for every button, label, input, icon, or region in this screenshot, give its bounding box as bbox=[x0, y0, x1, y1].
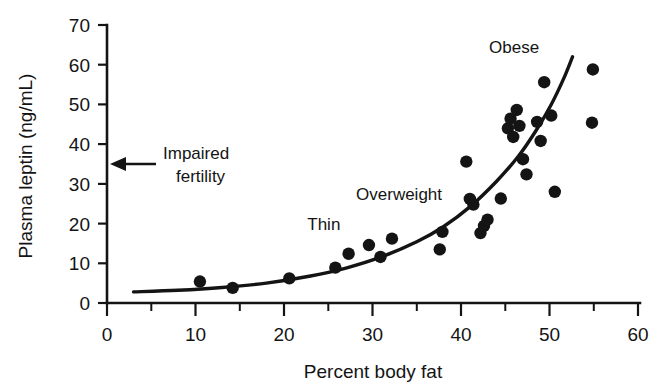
data-point bbox=[434, 243, 446, 255]
y-tick-label-30: 30 bbox=[69, 174, 90, 195]
y-axis-title: Plasma leptin (ng/mL) bbox=[15, 74, 36, 259]
y-tick-label-40: 40 bbox=[69, 134, 90, 155]
y-tick-label-20: 20 bbox=[69, 214, 90, 235]
data-point bbox=[587, 63, 599, 75]
annotation-obese: Obese bbox=[489, 38, 539, 57]
data-point bbox=[467, 198, 479, 210]
x-tick-label-30: 30 bbox=[362, 324, 383, 345]
y-tick-label-50: 50 bbox=[69, 94, 90, 115]
data-point bbox=[481, 213, 493, 225]
data-point bbox=[329, 261, 341, 273]
data-point bbox=[538, 76, 550, 88]
data-point bbox=[531, 116, 543, 128]
y-tick-label-70: 70 bbox=[69, 15, 90, 36]
chart-background bbox=[0, 0, 665, 392]
data-point bbox=[386, 232, 398, 244]
y-tick-label-60: 60 bbox=[69, 55, 90, 76]
data-point bbox=[342, 248, 354, 260]
data-point bbox=[517, 153, 529, 165]
y-tick-label-0: 0 bbox=[79, 293, 90, 314]
impaired-fertility-line2: fertility bbox=[176, 167, 226, 186]
y-tick-label-10: 10 bbox=[69, 253, 90, 274]
x-tick-label-20: 20 bbox=[273, 324, 294, 345]
data-point bbox=[545, 109, 557, 121]
impaired-fertility-line1: Impaired bbox=[163, 144, 229, 163]
scatter-plot-svg: Plasma leptin (ng/mL) Percent body fat 7… bbox=[0, 0, 665, 392]
data-point bbox=[586, 117, 598, 129]
x-tick-label-10: 10 bbox=[185, 324, 206, 345]
data-point bbox=[226, 282, 238, 294]
data-point bbox=[363, 239, 375, 251]
data-point bbox=[513, 120, 525, 132]
data-point bbox=[507, 131, 519, 143]
data-point bbox=[283, 272, 295, 284]
data-point bbox=[495, 192, 507, 204]
data-point bbox=[549, 186, 561, 198]
data-point bbox=[460, 155, 472, 167]
chart-figure: Plasma leptin (ng/mL) Percent body fat 7… bbox=[0, 0, 665, 392]
x-tick-label-40: 40 bbox=[450, 324, 471, 345]
annotation-thin: Thin bbox=[307, 215, 340, 234]
x-axis-title: Percent body fat bbox=[304, 361, 443, 382]
data-point bbox=[374, 251, 386, 263]
x-tick-label-50: 50 bbox=[539, 324, 560, 345]
data-point bbox=[436, 226, 448, 238]
data-point bbox=[534, 135, 546, 147]
data-point bbox=[511, 104, 523, 116]
annotation-overweight: Overweight bbox=[356, 185, 442, 204]
x-tick-label-60: 60 bbox=[627, 324, 648, 345]
data-point bbox=[194, 275, 206, 287]
x-tick-label-0: 0 bbox=[102, 324, 113, 345]
data-point bbox=[520, 168, 532, 180]
